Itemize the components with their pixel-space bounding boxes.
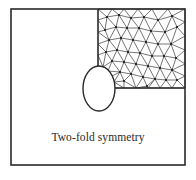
mesh-edge: [177, 27, 185, 36]
mesh-edge: [140, 42, 146, 53]
mesh-edge: [155, 68, 160, 79]
mesh-edge: [119, 9, 124, 15]
mesh-edge: [160, 68, 172, 70]
mesh-edge: [151, 31, 158, 44]
mesh-edge: [133, 28, 139, 40]
mesh-edge: [121, 38, 133, 40]
mesh-edge: [121, 38, 128, 52]
mesh-edge: [112, 61, 120, 72]
mesh-edge: [124, 62, 136, 64]
mesh-node: [147, 65, 149, 67]
mesh-edge: [120, 62, 124, 72]
mesh-node: [116, 49, 118, 51]
mesh-edge: [136, 64, 143, 77]
mesh-node: [163, 55, 165, 57]
mesh-edge: [158, 44, 164, 56]
mesh-edge: [160, 56, 164, 68]
mesh-node: [126, 27, 128, 29]
mesh-node: [118, 14, 120, 16]
diagram-caption: Two-fold symmetry: [11, 131, 185, 143]
mesh-edge: [176, 50, 185, 58]
mesh-edge: [136, 53, 140, 64]
mesh-edge: [133, 40, 146, 42]
mesh-edge: [127, 18, 131, 28]
mesh-edge: [144, 17, 151, 31]
mesh-edge: [103, 52, 106, 67]
mesh-node: [143, 16, 145, 18]
mesh-edge: [164, 44, 171, 56]
mesh-edge: [177, 80, 185, 88]
mesh-edge: [139, 17, 144, 28]
mesh-edge: [136, 64, 148, 66]
mesh-node: [154, 78, 156, 80]
mesh-node: [165, 79, 167, 81]
mesh-edge: [121, 28, 127, 38]
mesh-edge: [116, 15, 119, 27]
mesh-edge: [128, 40, 133, 52]
mesh-edge: [98, 52, 106, 55]
mesh-edge: [105, 17, 107, 30]
mesh-edge: [107, 17, 116, 27]
mesh-edge: [116, 27, 121, 38]
mesh-edge: [131, 64, 136, 74]
mesh-node: [130, 73, 132, 75]
mesh-edge: [98, 9, 107, 17]
mesh-edge: [176, 58, 185, 64]
mesh-edge: [106, 40, 109, 52]
mesh-edge: [116, 27, 127, 28]
mesh-edge: [131, 74, 143, 77]
mesh-edge: [148, 66, 155, 79]
mesh-edge: [131, 18, 139, 28]
mesh-edge: [172, 70, 185, 76]
mesh-edge: [98, 17, 107, 20]
mesh-edge: [164, 56, 176, 58]
mesh-edge: [106, 50, 117, 52]
mesh-edge: [128, 52, 136, 64]
mesh-edge: [146, 42, 158, 44]
mesh-edge: [151, 31, 165, 32]
mesh-node: [176, 79, 178, 81]
mesh-node: [120, 37, 122, 39]
mesh-node: [104, 29, 106, 31]
mesh-node: [123, 80, 125, 82]
mesh-node: [139, 52, 141, 54]
mesh-edge: [148, 56, 152, 66]
mesh-node: [164, 31, 166, 33]
mesh-edge: [144, 9, 152, 17]
mesh-edge: [172, 80, 177, 88]
mesh-node: [142, 76, 144, 78]
mesh-edge: [155, 79, 160, 88]
mesh-edge: [124, 62, 131, 74]
mesh-node: [119, 71, 121, 73]
mesh-edge: [164, 56, 172, 70]
elliptical-hole: [83, 66, 115, 111]
mesh-node: [150, 30, 152, 32]
mesh-edge: [146, 31, 151, 42]
mesh-edge: [112, 61, 124, 62]
mesh-edge: [139, 28, 151, 31]
mesh-edge: [143, 66, 148, 77]
mesh-edge: [139, 28, 146, 42]
mesh-edge: [98, 40, 109, 44]
mesh-node: [176, 26, 178, 28]
mesh-edge: [152, 44, 158, 56]
mesh-edge: [124, 52, 128, 62]
mesh-edge: [120, 72, 131, 74]
mesh-node: [132, 39, 134, 41]
mesh-edge: [136, 77, 143, 88]
mesh-edge: [133, 40, 140, 53]
mesh-edge: [124, 74, 131, 81]
mesh-node: [157, 19, 159, 21]
mesh-edge: [131, 9, 138, 18]
mesh-edge: [117, 38, 121, 50]
mesh-node: [111, 60, 113, 62]
mesh-edge: [138, 9, 144, 17]
mesh-edge: [109, 38, 121, 40]
mesh-edge: [160, 68, 166, 80]
mesh-edge: [158, 20, 165, 32]
mesh-edge: [168, 9, 172, 16]
mesh-edge: [106, 52, 112, 61]
mesh-edge: [98, 55, 103, 67]
mesh-edge: [151, 20, 158, 31]
mesh-node: [135, 63, 137, 65]
